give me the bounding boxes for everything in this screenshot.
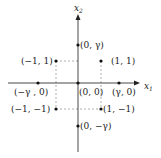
x1-arrow-icon (134, 81, 140, 86)
point-0-0 (76, 81, 79, 84)
label-0-mgamma: (0, −γ) (80, 121, 111, 131)
point-gamma-0 (117, 81, 120, 84)
label-1-1: (1, 1) (111, 56, 135, 66)
label-0-gamma: (0, γ) (80, 40, 104, 50)
x2-axis-label: x2 (74, 3, 83, 14)
x2-arrow-icon (76, 14, 81, 20)
label-m1-m1: (−1, −1) (11, 104, 50, 114)
x1-axis-label: x1 (144, 81, 153, 92)
point-m1-m1 (54, 107, 57, 110)
axes (8, 18, 136, 152)
point-m1-1 (54, 59, 57, 62)
label-mgamma-0: (−γ , 0) (14, 87, 48, 97)
label-1-m1: (1, −1) (103, 104, 135, 114)
label-0-0: (0, 0) (79, 87, 103, 97)
coordinate-diagram: x1 x2 (0, γ) (−1, 1) (1, 1) (−γ , 0) (0,… (0, 0, 161, 158)
label-gamma-0: (γ, 0) (112, 87, 136, 97)
point-1-1 (99, 59, 102, 62)
label-m1-1: (−1, 1) (21, 56, 53, 66)
point-mgamma-0 (36, 81, 39, 84)
dashed-guides (56, 61, 101, 109)
